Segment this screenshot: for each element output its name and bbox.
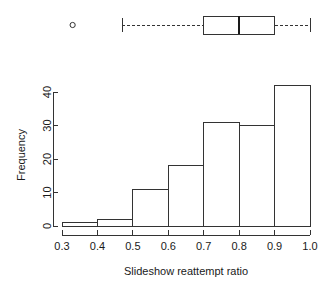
histogram-bar xyxy=(168,166,203,226)
x-tick-label: 0.6 xyxy=(161,240,176,252)
x-axis-title: Slideshow reattempt ratio xyxy=(124,265,248,277)
figure-panel: 0.30.40.50.60.70.80.91.0 010203040 Slide… xyxy=(0,0,326,286)
y-axis-title: Frequency xyxy=(15,129,27,181)
y-tick-label: 0 xyxy=(41,223,53,229)
histogram-bar xyxy=(275,85,310,226)
x-tick-label: 0.4 xyxy=(90,240,105,252)
histogram-bar xyxy=(62,223,97,226)
x-tick-label: 0.3 xyxy=(54,240,69,252)
histogram-bar xyxy=(239,126,274,227)
x-tick-label: 0.8 xyxy=(231,240,246,252)
x-tick-label: 0.7 xyxy=(196,240,211,252)
chart-svg: 0.30.40.50.60.70.80.91.0 010203040 Slide… xyxy=(0,0,326,286)
histogram-bar xyxy=(97,219,132,226)
x-tick-label: 0.9 xyxy=(267,240,282,252)
histogram-bar xyxy=(204,122,239,226)
x-tick-label: 0.5 xyxy=(125,240,140,252)
y-tick-label: 20 xyxy=(41,153,53,165)
y-tick-label: 40 xyxy=(41,86,53,98)
histogram-bar xyxy=(133,189,168,226)
x-tick-label: 1.0 xyxy=(302,240,317,252)
y-tick-label: 30 xyxy=(41,119,53,131)
y-tick-label: 10 xyxy=(41,186,53,198)
